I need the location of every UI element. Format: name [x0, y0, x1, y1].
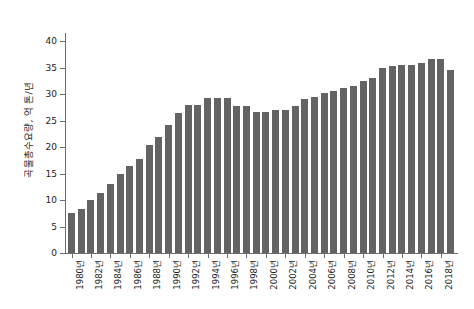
- bar: [146, 145, 153, 253]
- bar: [107, 184, 114, 253]
- y-axis-tick-label: 0: [51, 248, 57, 258]
- bar: [311, 97, 318, 253]
- bar: [204, 98, 211, 253]
- bar: [214, 98, 221, 253]
- x-axis-tick-label: 2002년: [289, 260, 298, 290]
- bar: [233, 106, 240, 253]
- x-axis-tick-label: 2008년: [348, 260, 357, 290]
- x-axis-tick-label: 1984년: [114, 260, 123, 290]
- bar: [136, 159, 143, 253]
- x-axis-tick: [208, 254, 209, 258]
- x-axis-tick: [169, 254, 170, 258]
- x-axis-tick-label: 1994년: [212, 260, 221, 290]
- y-axis-tick-label: 25: [46, 116, 57, 126]
- x-axis-tick-label: 1988년: [153, 260, 162, 290]
- bar: [272, 110, 279, 253]
- x-axis-tick-label: 1986년: [134, 260, 143, 290]
- bar: [117, 174, 124, 254]
- y-axis-tick-label: 30: [46, 89, 57, 99]
- x-axis-tick: [421, 254, 422, 258]
- bar: [398, 65, 405, 253]
- x-axis-tick: [110, 254, 111, 258]
- x-axis-tick: [383, 254, 384, 258]
- bar: [97, 193, 104, 253]
- bar: [408, 65, 415, 253]
- bar: [418, 63, 425, 253]
- bar: [292, 106, 299, 253]
- x-axis-baseline: [60, 253, 458, 254]
- bar: [340, 88, 347, 253]
- y-axis-tick-label: 15: [46, 169, 57, 179]
- x-axis-tick: [402, 254, 403, 258]
- bar: [350, 86, 357, 253]
- bar: [360, 81, 367, 253]
- bar: [243, 106, 250, 253]
- x-axis-tick-label: 1982년: [95, 260, 104, 290]
- x-axis-tick-label: 2010년: [367, 260, 376, 290]
- bar: [155, 137, 162, 253]
- bar: [194, 105, 201, 253]
- x-axis-tick-label: 2004년: [309, 260, 318, 290]
- bar: [301, 99, 308, 253]
- y-axis-tick-label: 5: [51, 222, 57, 232]
- bar: [389, 66, 396, 253]
- bar: [165, 125, 172, 253]
- grain-demand-bar-chart: 곡물총수요량, 억 톤/년 0510152025303540 1980년1982…: [0, 0, 474, 309]
- bar: [87, 200, 94, 253]
- x-axis-tick: [246, 254, 247, 258]
- bar: [437, 59, 444, 253]
- x-axis-tick: [344, 254, 345, 258]
- bar: [428, 59, 435, 253]
- x-axis-tick-label: 1990년: [173, 260, 182, 290]
- x-axis-tick-label: 2000년: [270, 260, 279, 290]
- x-axis-tick-label: 2016년: [425, 260, 434, 290]
- x-axis-tick: [91, 254, 92, 258]
- x-axis-tick: [149, 254, 150, 258]
- y-axis-tick-label: 20: [46, 142, 57, 152]
- x-axis-tick: [130, 254, 131, 258]
- x-axis-tick-label: 2014년: [406, 260, 415, 290]
- bar: [126, 166, 133, 253]
- x-axis-tick: [266, 254, 267, 258]
- x-axis-tick-label: 1998년: [250, 260, 259, 290]
- bar: [321, 93, 328, 253]
- y-axis-tick-label: 35: [46, 63, 57, 73]
- bar: [330, 91, 337, 253]
- x-axis-tick-label: 2006년: [328, 260, 337, 290]
- y-axis-tick-label: 10: [46, 195, 57, 205]
- bar: [224, 98, 231, 253]
- x-axis-tick-label: 2018년: [445, 260, 454, 290]
- x-axis-tick-label: 2012년: [387, 260, 396, 290]
- y-axis-tick-label: 40: [46, 36, 57, 46]
- bar: [185, 105, 192, 253]
- x-axis-tick: [72, 254, 73, 258]
- x-axis-tick: [305, 254, 306, 258]
- x-axis-tick: [324, 254, 325, 258]
- y-axis-title: 곡물총수요량, 억 톤/년: [18, 0, 40, 260]
- x-axis-tick: [363, 254, 364, 258]
- x-axis-tick: [188, 254, 189, 258]
- bar: [78, 209, 85, 253]
- x-axis-tick-label: 1980년: [76, 260, 85, 290]
- bar: [253, 112, 260, 253]
- bar: [262, 112, 269, 253]
- bar: [68, 213, 75, 253]
- bar: [379, 68, 386, 254]
- x-axis-tick: [441, 254, 442, 258]
- bar: [447, 70, 454, 253]
- bar: [175, 113, 182, 253]
- bar: [282, 110, 289, 253]
- x-axis-tick: [285, 254, 286, 258]
- x-axis-tick-label: 1992년: [192, 260, 201, 290]
- y-axis-title-text: 곡물총수요량, 억 톤/년: [24, 82, 34, 178]
- bar-series: [66, 36, 456, 253]
- x-axis-tick-label: 1996년: [231, 260, 240, 290]
- bar: [369, 78, 376, 253]
- x-axis-tick: [227, 254, 228, 258]
